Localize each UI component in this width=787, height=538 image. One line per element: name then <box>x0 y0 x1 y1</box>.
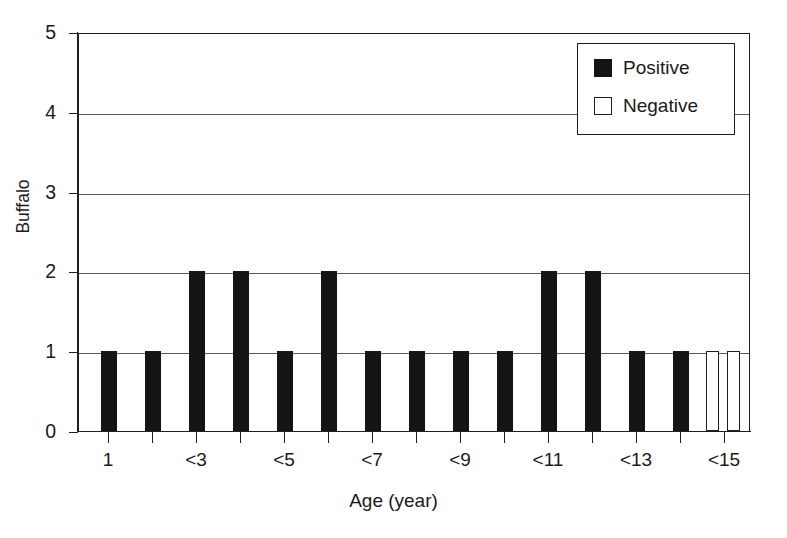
bar-2 <box>145 351 161 431</box>
y-tick-1 <box>69 352 78 353</box>
bar-1 <box>101 351 117 431</box>
y-axis-title: Buffalo <box>13 152 34 262</box>
legend-item-positive: Positive <box>594 58 690 77</box>
y-tick-label-5: 5 <box>16 23 56 43</box>
x-tick-label-<7: <7 <box>337 450 407 469</box>
x-minor-tick-6 <box>680 432 681 443</box>
x-axis-title: Age (year) <box>0 490 787 512</box>
x-tick-<3 <box>196 432 197 443</box>
x-tick-<7 <box>372 432 373 443</box>
bar-7 <box>365 351 381 431</box>
y-tick-label-3: 3 <box>16 183 56 203</box>
legend-swatch-negative-icon <box>594 97 612 115</box>
bar-14 <box>673 351 689 431</box>
y-tick-label-1: 1 <box>16 342 56 362</box>
x-tick-<11 <box>548 432 549 443</box>
legend-swatch-positive-icon <box>594 59 612 77</box>
x-minor-tick-5 <box>592 432 593 443</box>
x-tick-<15 <box>724 432 725 443</box>
y-tick-label-0: 0 <box>16 422 56 442</box>
x-tick-label-<11: <11 <box>513 450 583 469</box>
x-tick-label-<15: <15 <box>689 450 759 469</box>
y-tick-0 <box>69 432 78 433</box>
x-tick-label-<5: <5 <box>249 450 319 469</box>
chart-root: Buffalo 543210 1<3<5<7<9<11<13<15 Age (y… <box>0 0 787 538</box>
legend-item-negative: Negative <box>594 96 698 115</box>
bar-11 <box>541 271 557 431</box>
x-tick-<13 <box>636 432 637 443</box>
x-minor-tick-0 <box>152 432 153 443</box>
x-axis-line <box>78 431 751 432</box>
bar-3 <box>189 271 205 431</box>
y-tick-5 <box>69 33 78 34</box>
x-tick-<9 <box>460 432 461 443</box>
bar-12 <box>585 271 601 431</box>
x-minor-tick-4 <box>504 432 505 443</box>
bar-13 <box>629 351 645 431</box>
bar-4 <box>233 271 249 431</box>
legend-label-positive: Positive <box>623 58 690 77</box>
y-tick-label-4: 4 <box>16 103 56 123</box>
y-tick-4 <box>69 113 78 114</box>
bar-5 <box>277 351 293 431</box>
x-tick-label-<13: <13 <box>601 450 671 469</box>
bar-15 <box>706 351 719 431</box>
y-tick-label-2: 2 <box>16 262 56 282</box>
bar-16 <box>727 351 740 431</box>
bar-10 <box>497 351 513 431</box>
x-tick-1 <box>108 432 109 443</box>
x-minor-tick-3 <box>416 432 417 443</box>
x-tick-<5 <box>284 432 285 443</box>
x-tick-label-<3: <3 <box>161 450 231 469</box>
bar-9 <box>453 351 469 431</box>
chart-legend: Positive Negative <box>577 43 735 135</box>
y-tick-2 <box>69 272 78 273</box>
legend-label-negative: Negative <box>623 96 698 115</box>
x-minor-tick-1 <box>240 432 241 443</box>
y-tick-3 <box>69 193 78 194</box>
bar-6 <box>321 271 337 431</box>
x-tick-label-1: 1 <box>73 450 143 469</box>
x-minor-tick-2 <box>328 432 329 443</box>
x-tick-label-<9: <9 <box>425 450 495 469</box>
bar-8 <box>409 351 425 431</box>
